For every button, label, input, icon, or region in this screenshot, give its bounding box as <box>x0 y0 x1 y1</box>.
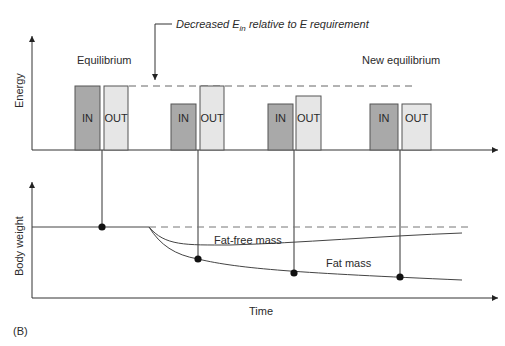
body-weight-axis-label: Body weight <box>13 216 25 276</box>
top-panel: Decreased Ein relative to E requirement … <box>13 18 498 150</box>
weight-point-1 <box>98 223 105 230</box>
bottom-panel: Body weight Time Fat-free mass Fat mass <box>13 182 498 317</box>
in-bar-2 <box>171 104 196 150</box>
energy-axis-label: Energy <box>13 73 25 108</box>
in-bar-2-label: IN <box>178 112 189 124</box>
in-bar-4 <box>370 104 398 150</box>
fat-mass-label: Fat mass <box>326 257 372 269</box>
new-equilibrium-label: New equilibrium <box>362 54 440 66</box>
weight-point-2 <box>194 255 201 262</box>
time-axis-label: Time <box>249 305 273 317</box>
in-bar-3 <box>268 104 293 150</box>
out-bar-1-label: OUT <box>104 112 128 124</box>
in-bar-4-label: IN <box>379 112 390 124</box>
in-bar-1-label: IN <box>82 112 93 124</box>
out-bar-3-label: OUT <box>297 112 321 124</box>
fat-free-mass-label: Fat-free mass <box>214 234 282 246</box>
in-bar-3-label: IN <box>275 112 286 124</box>
equilibrium-label: Equilibrium <box>77 54 131 66</box>
out-bar-4 <box>402 104 431 150</box>
weight-point-4 <box>396 273 403 280</box>
energy-balance-diagram: Decreased Ein relative to E requirement … <box>0 0 505 346</box>
out-bar-4-label: OUT <box>405 112 429 124</box>
annotation-arrow <box>155 24 172 80</box>
fat-free-mass-curve <box>149 227 462 245</box>
panel-tag: (B) <box>13 325 28 337</box>
weight-point-3 <box>290 269 297 276</box>
annotation-text: Decreased Ein relative to E requirement <box>176 18 370 33</box>
out-bar-2-label: OUT <box>200 112 224 124</box>
